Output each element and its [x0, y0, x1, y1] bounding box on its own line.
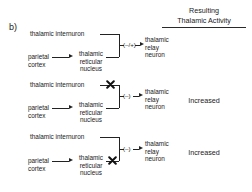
panel-2-block-x-icon	[106, 80, 115, 89]
panel-2-reticular-label: thalamic reticular nucleus	[76, 101, 106, 124]
panel-letter: b)	[9, 22, 17, 32]
panel-1-reticular-label: thalamic reticular nucleus	[76, 50, 106, 73]
panel-3-internuron-axon	[100, 137, 119, 138]
panel-2-sign-label: (–)	[123, 92, 131, 99]
panel-1-internuron-label: thalamic internuron	[30, 30, 84, 38]
panel-3-cortex-arrowhead	[69, 158, 73, 162]
panel-3-block-x-icon	[108, 156, 117, 165]
column-header-underline	[162, 27, 246, 28]
column-header: Resulting Thalamic Activity	[160, 6, 248, 28]
panel-1-reticular-axon	[106, 57, 119, 58]
panel-3-cortex-label: parietal cortex	[28, 157, 49, 172]
panel-2-internuron-label: thalamic internuron	[30, 81, 84, 89]
panel-2-cortex-arrowhead	[69, 105, 73, 109]
panel-1-relay-label: thalamic relay neuron	[145, 36, 169, 59]
panel-3-cortex-axon	[52, 161, 69, 162]
panel-1-cortex-label: parietal cortex	[28, 53, 49, 68]
panel-1-internuron-axon	[100, 34, 119, 35]
panel-1-relay-arrowhead	[140, 42, 144, 46]
panel-3-relay-arrowhead	[139, 146, 143, 150]
panel-2-result: Increased	[160, 96, 248, 105]
panel-3-internuron-label: thalamic internuron	[30, 133, 84, 141]
panel-1-cortex-axon	[52, 57, 69, 58]
panel-1-sign-label: (–/+)	[123, 41, 136, 48]
panel-2-relay-arrowhead	[139, 93, 143, 97]
panel-1-cortex-arrowhead	[69, 54, 73, 58]
panel-3-result: Increased	[160, 148, 248, 157]
panel-3-sign-label: (–)	[123, 145, 131, 152]
panel-3-reticular-label: thalamic reticular nucleus	[76, 154, 106, 177]
figure-panel-b: b) Resulting Thalamic Activity thalamic …	[0, 0, 252, 192]
column-header-line-2: Thalamic Activity	[160, 16, 248, 26]
panel-2-cortex-label: parietal cortex	[28, 104, 49, 119]
panel-2-cortex-axon	[52, 108, 69, 109]
column-header-line-1: Resulting	[160, 6, 248, 16]
panel-2-reticular-axon	[106, 108, 119, 109]
